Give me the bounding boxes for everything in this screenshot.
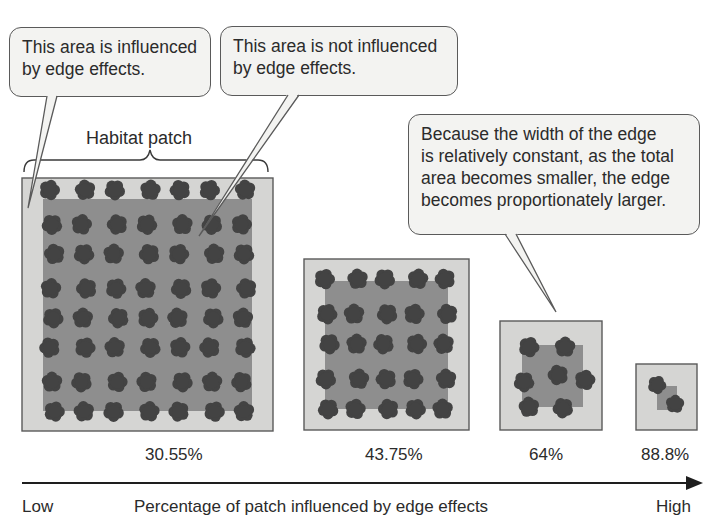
habitat-bracket (24, 150, 268, 172)
callout-proportion: Because the width of the edgeis relative… (408, 114, 700, 235)
axis-title: Percentage of patch influenced by edge e… (134, 497, 488, 517)
patch-large (22, 178, 273, 431)
callout-text-line: becomes proportionately larger. (421, 189, 689, 211)
callout-text-line: by edge effects. (22, 58, 200, 80)
axis-high-label: High (656, 497, 691, 517)
callout-text-line: area becomes smaller, the edge (421, 167, 689, 189)
callout-influenced: This area is influencedby edge effects. (9, 27, 211, 97)
callout-text-line: is relatively constant, as the total (421, 145, 689, 167)
callout-text-line: This area is influenced (22, 36, 200, 58)
axis-arrowhead-icon (686, 476, 703, 490)
axis-low-label: Low (22, 497, 53, 517)
percent-label-tiny: 88.8% (641, 445, 689, 465)
percent-label-large: 30.55% (145, 445, 203, 465)
patch-small (500, 321, 602, 430)
percent-label-medium: 43.75% (365, 445, 423, 465)
percent-label-small: 64% (529, 445, 563, 465)
patch-medium (304, 259, 469, 430)
patch-tiny (636, 364, 697, 430)
callout-text-line: This area is not influenced (233, 35, 447, 57)
callout-text-line: by edge effects. (233, 57, 447, 79)
callout-not-influenced: This area is not influencedby edge effec… (220, 26, 458, 96)
habitat-patch-label: Habitat patch (86, 128, 192, 149)
callout-text-line: Because the width of the edge (421, 123, 689, 145)
